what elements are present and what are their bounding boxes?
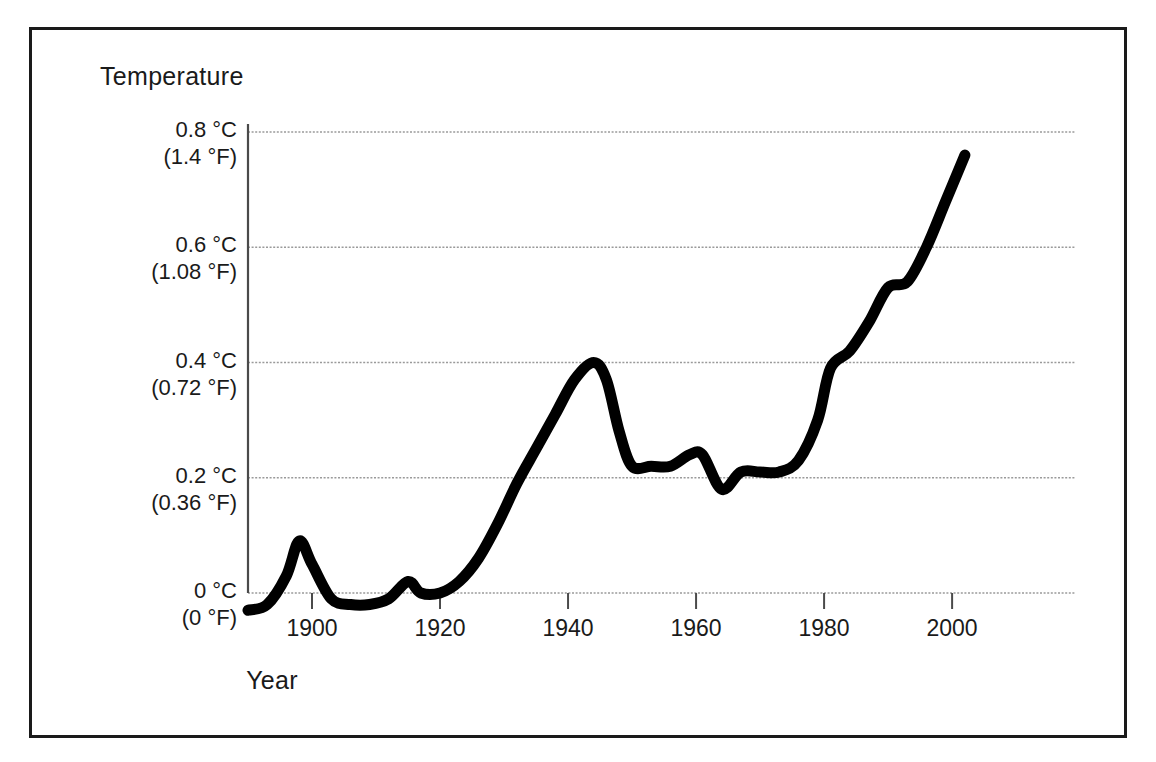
temperature-series-line xyxy=(248,155,965,610)
figure-container: Temperature Year 0.8 °C(1.4 °F)0.6 °C(1.… xyxy=(0,0,1156,762)
x-axis-tickmarks xyxy=(312,593,952,609)
plot-area xyxy=(0,0,1156,762)
